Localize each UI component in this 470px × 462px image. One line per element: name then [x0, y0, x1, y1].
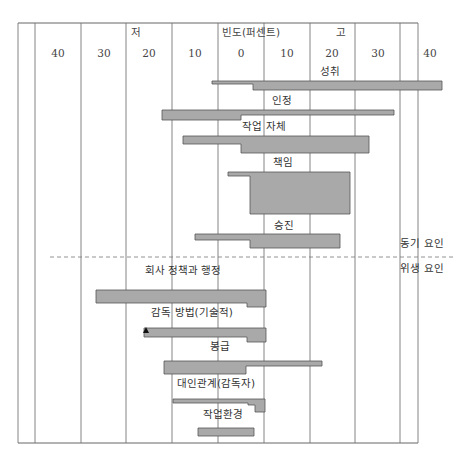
tick-label: 20: [142, 47, 155, 59]
bar-label: 대인관계(감독자): [177, 377, 255, 389]
bar-label: 성취: [320, 65, 340, 77]
bar-label: 인정: [272, 94, 292, 106]
tick-label: 30: [97, 47, 110, 59]
bar: [228, 172, 350, 214]
herzberg-factor-chart: 저 빈도(퍼센트) 고 40302010010203040 동기 요인위생 요인…: [0, 0, 470, 462]
bar: [96, 290, 266, 307]
bar: [183, 136, 369, 153]
tick-label: 10: [280, 47, 293, 59]
tick-label: 40: [423, 47, 436, 59]
bar-label: 회사 정책과 행정: [145, 264, 222, 276]
tick-label: 10: [188, 47, 201, 59]
tick-label: 40: [51, 47, 64, 59]
bar: [212, 81, 442, 90]
bar-label: 책임: [273, 156, 293, 168]
bar-label: 작업환경: [203, 408, 243, 420]
tick-label: 0: [238, 47, 245, 59]
tick-label: 30: [371, 47, 384, 59]
tick-label: 20: [325, 47, 338, 59]
bar-label: 승진: [274, 219, 294, 231]
bars: [96, 81, 442, 436]
bar-label: 작업 자체: [242, 120, 285, 132]
axis-ticks: 40302010010203040: [51, 47, 436, 59]
bar: [164, 361, 322, 374]
group-label: 위생 요인: [400, 262, 443, 274]
group-labels: 동기 요인위생 요인: [400, 237, 443, 274]
bar: [198, 428, 254, 436]
axis-header: 저 빈도(퍼센트) 고: [131, 26, 346, 38]
group-label: 동기 요인: [400, 237, 443, 249]
high-label: 고: [336, 26, 346, 38]
bar: [162, 110, 394, 120]
bar: [195, 234, 340, 248]
low-label: 저: [131, 26, 141, 38]
bar-label: 감독 방법(기술적): [151, 306, 233, 318]
axis-title: 빈도(퍼센트): [222, 26, 280, 38]
bar-label: 봉급: [210, 340, 230, 352]
bar: [144, 328, 266, 342]
